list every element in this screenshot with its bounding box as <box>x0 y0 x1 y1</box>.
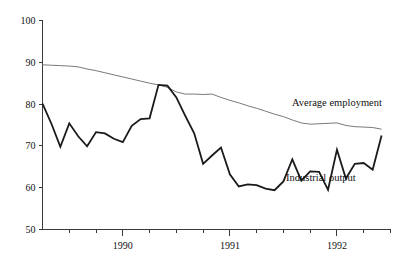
series-label-industrial-output: Industrial output <box>286 172 356 183</box>
x-tick-label: 1990 <box>113 240 133 251</box>
y-tick-label: 90 <box>26 57 36 68</box>
y-tick-label: 100 <box>21 15 36 26</box>
series-label-average-employment: Average employment <box>292 97 382 108</box>
chart-container: 5060708090100199019911992Average employm… <box>0 0 410 262</box>
line-chart: 5060708090100199019911992Average employm… <box>0 0 410 262</box>
y-tick-label: 60 <box>26 182 36 193</box>
y-tick-label: 70 <box>26 140 36 151</box>
x-tick-label: 1992 <box>327 240 347 251</box>
x-tick-label: 1991 <box>220 240 240 251</box>
y-tick-label: 80 <box>26 99 36 110</box>
y-tick-label: 50 <box>26 224 36 235</box>
